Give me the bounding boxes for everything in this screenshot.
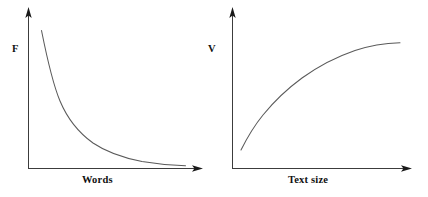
- right-x-axis-label: Text size: [288, 175, 328, 186]
- figure-container: F Words V Text size: [0, 0, 428, 197]
- left-y-axis-label: F: [12, 44, 19, 55]
- chart-panel-left: [0, 0, 214, 197]
- right-plot-canvas: [214, 0, 428, 197]
- chart-panel-right: [214, 0, 428, 197]
- left-data-curve: [42, 31, 186, 166]
- left-plot-canvas: [0, 0, 214, 197]
- left-x-axis-label: Words: [82, 175, 113, 186]
- right-data-curve: [241, 43, 400, 150]
- right-y-axis-label: V: [208, 44, 216, 55]
